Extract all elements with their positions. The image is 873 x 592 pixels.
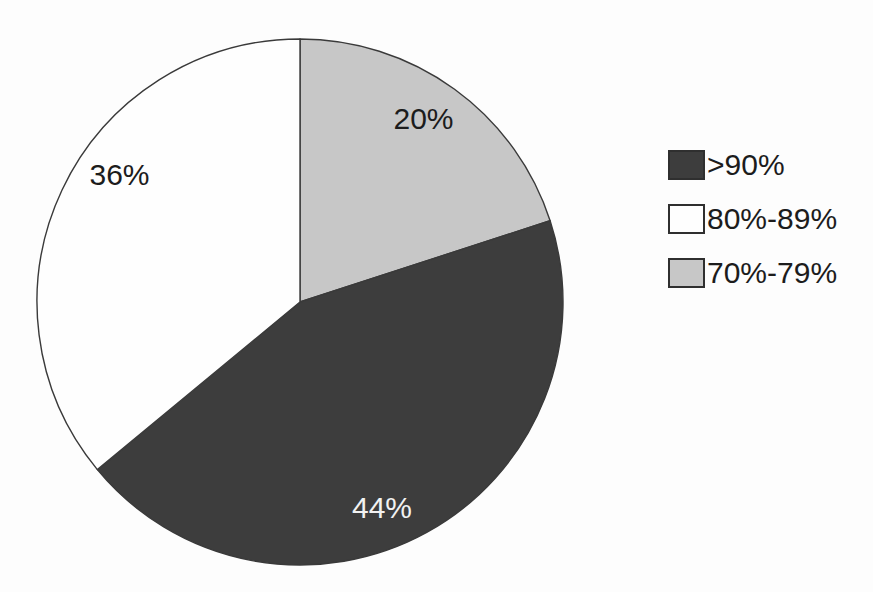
legend-swatch-icon (668, 150, 705, 180)
legend-label: 80%-89% (707, 204, 837, 234)
legend-swatch-icon (668, 204, 705, 234)
legend-label: 70%-79% (707, 258, 837, 288)
slice-value-label: 20% (393, 102, 453, 135)
legend-item-70-79: 70%-79% (668, 258, 837, 288)
pie-chart: 20%44%36% (0, 0, 873, 592)
legend: >90%80%-89%70%-79% (668, 150, 837, 288)
slice-value-label: 44% (352, 491, 412, 524)
legend-item-80-89: 80%-89% (668, 204, 837, 234)
legend-item-90: >90% (668, 150, 837, 180)
slice-value-label: 36% (89, 158, 149, 191)
legend-swatch-icon (668, 258, 705, 288)
pie-chart-figure: 20%44%36% >90%80%-89%70%-79% (0, 0, 873, 592)
legend-label: >90% (707, 150, 785, 180)
